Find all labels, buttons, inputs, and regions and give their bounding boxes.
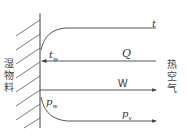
hot-air-label: 热空气 xyxy=(166,59,178,95)
label-t-w-sub: w xyxy=(53,55,58,62)
label-t: t xyxy=(152,19,156,29)
wet-material-label: 湿物料 xyxy=(3,58,15,94)
label-p-w-sub: w xyxy=(52,102,57,109)
label-t-w: tw xyxy=(49,50,58,62)
temperature-curve xyxy=(41,28,156,50)
label-w: W xyxy=(118,79,127,89)
hatch-lines xyxy=(16,20,40,128)
label-p-v: pv xyxy=(122,109,132,121)
label-q: Q xyxy=(122,48,131,59)
drying-diagram xyxy=(0,0,187,140)
label-p-w: pw xyxy=(46,97,58,109)
vapor-pressure-curve xyxy=(41,97,156,121)
label-p-v-sub: v xyxy=(128,114,131,121)
